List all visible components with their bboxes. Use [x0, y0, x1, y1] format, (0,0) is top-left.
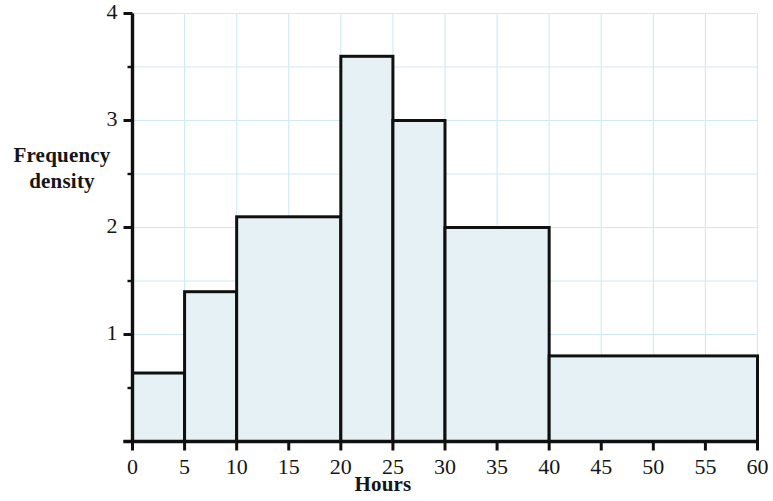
x-axis-tick-label: 45 — [581, 454, 621, 480]
y-axis-tick-label: 2 — [92, 213, 118, 239]
histogram-bar — [185, 292, 237, 442]
x-axis-tick-label: 20 — [321, 454, 361, 480]
histogram-bar — [445, 228, 549, 442]
x-axis-tick-label: 40 — [529, 454, 569, 480]
x-axis-tick-label: 25 — [373, 454, 413, 480]
x-axis-tick-label: 5 — [165, 454, 205, 480]
x-axis-tick-label: 15 — [269, 454, 309, 480]
y-axis-tick-label: 3 — [92, 106, 118, 132]
histogram-bar — [549, 356, 757, 442]
x-axis-tick-label: 50 — [633, 454, 673, 480]
y-axis-label-line1: Frequency — [6, 142, 118, 168]
histogram-bar — [237, 217, 341, 442]
x-axis-tick-label: 0 — [113, 454, 153, 480]
x-axis-tick-label: 55 — [685, 454, 725, 480]
x-axis-tick-label: 35 — [477, 454, 517, 480]
histogram-bar — [133, 373, 185, 441]
y-axis-label: Frequency density — [6, 142, 118, 194]
x-axis-tick-label: 10 — [217, 454, 257, 480]
y-axis-tick-label: 1 — [92, 320, 118, 346]
y-axis-tick-label: 4 — [92, 0, 118, 25]
histogram-bar — [341, 56, 393, 441]
histogram-bar — [393, 121, 445, 442]
x-axis-tick-label: 60 — [738, 454, 773, 480]
x-axis-tick-label: 30 — [425, 454, 465, 480]
y-axis-label-line2: density — [6, 168, 118, 194]
